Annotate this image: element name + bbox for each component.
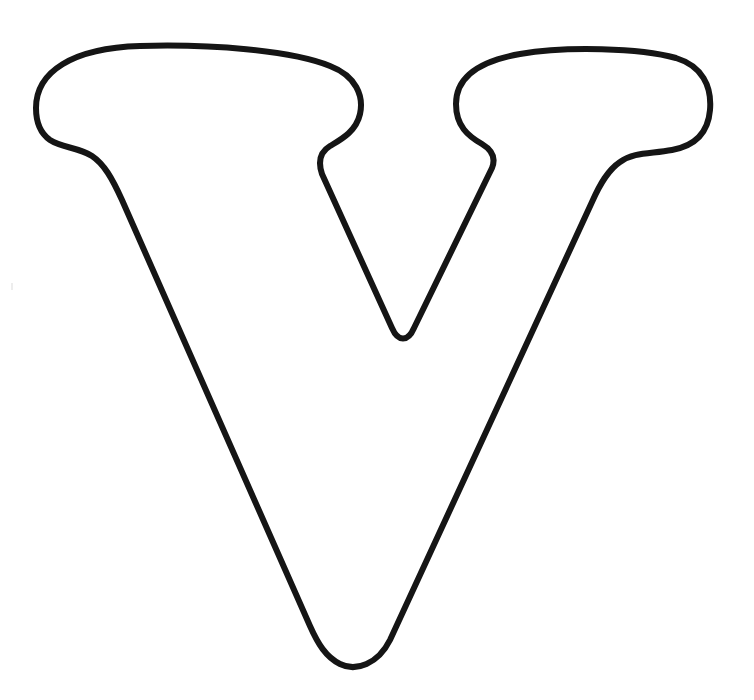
letter-v-canvas bbox=[0, 0, 754, 700]
scan-speck bbox=[11, 283, 13, 290]
coloring-page bbox=[0, 0, 754, 700]
